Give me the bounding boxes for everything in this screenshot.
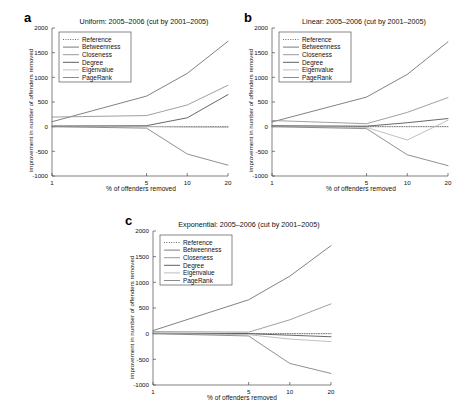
svg-text:5: 5 — [145, 179, 149, 186]
svg-text:5: 5 — [247, 388, 251, 395]
svg-text:2000: 2000 — [135, 227, 149, 234]
svg-text:Betweenness: Betweenness — [302, 43, 340, 50]
svg-text:Betweenness: Betweenness — [183, 246, 221, 253]
svg-text:2000: 2000 — [254, 24, 268, 31]
svg-text:0: 0 — [265, 123, 269, 130]
svg-text:PageRank: PageRank — [183, 277, 214, 285]
svg-text:0: 0 — [45, 123, 49, 130]
svg-text:20: 20 — [328, 388, 335, 395]
panel-c-plot: -1000-5000500100015002000151020Reference… — [119, 205, 355, 413]
svg-text:10: 10 — [286, 388, 293, 395]
panel-a-plot: -1000-5000500100015002000151020Reference… — [0, 0, 236, 200]
svg-text:1500: 1500 — [135, 253, 149, 260]
svg-text:500: 500 — [38, 98, 49, 105]
svg-text:1000: 1000 — [34, 74, 48, 81]
panel-a: a Uniform: 2005–2006 (cut by 2001–2005) … — [0, 0, 236, 200]
svg-text:2000: 2000 — [34, 24, 48, 31]
svg-text:Closeness: Closeness — [82, 51, 112, 58]
svg-text:1: 1 — [151, 388, 155, 395]
svg-text:5: 5 — [365, 179, 369, 186]
svg-text:1500: 1500 — [254, 49, 268, 56]
svg-text:-1000: -1000 — [252, 172, 268, 179]
svg-text:-500: -500 — [36, 148, 49, 155]
svg-text:Closeness: Closeness — [302, 51, 332, 58]
svg-text:Reference: Reference — [82, 36, 112, 43]
svg-text:-1000: -1000 — [133, 381, 149, 388]
svg-text:20: 20 — [225, 179, 232, 186]
panel-b: b Linear: 2005–2006 (cut by 2001–2005) i… — [238, 0, 474, 200]
svg-text:1000: 1000 — [254, 74, 268, 81]
svg-text:10: 10 — [404, 179, 411, 186]
svg-text:1: 1 — [50, 179, 54, 186]
svg-text:20: 20 — [445, 179, 452, 186]
svg-text:500: 500 — [139, 304, 150, 311]
svg-text:10: 10 — [184, 179, 191, 186]
svg-text:Closeness: Closeness — [183, 254, 213, 261]
panel-c: c Exponential: 2005–2006 (cut by 2001–20… — [119, 205, 355, 413]
svg-text:1000: 1000 — [135, 279, 149, 286]
svg-text:Reference: Reference — [183, 239, 213, 246]
svg-text:500: 500 — [258, 98, 269, 105]
svg-text:Reference: Reference — [302, 36, 332, 43]
svg-text:-1000: -1000 — [32, 172, 48, 179]
svg-text:1500: 1500 — [34, 49, 48, 56]
svg-text:PageRank: PageRank — [82, 74, 113, 82]
panel-b-plot: -1000-5000500100015002000151020Reference… — [238, 0, 474, 200]
svg-text:0: 0 — [146, 330, 150, 337]
svg-text:-500: -500 — [256, 148, 269, 155]
svg-text:Betweenness: Betweenness — [82, 43, 120, 50]
svg-text:-500: -500 — [137, 356, 150, 363]
svg-text:1: 1 — [270, 179, 274, 186]
svg-text:PageRank: PageRank — [302, 74, 333, 82]
